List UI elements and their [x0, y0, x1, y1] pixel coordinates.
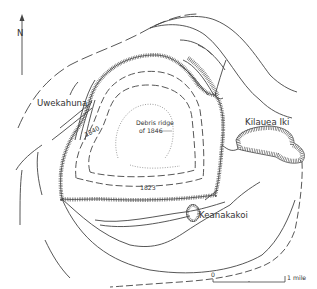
upper-right-scarp [180, 58, 226, 99]
southern-lines [62, 182, 295, 273]
north-arrow-icon: N [17, 14, 25, 75]
contour-1823-label: 1823 [140, 184, 156, 191]
keanakakoi-label: Keanakakoi [199, 210, 248, 220]
scale-start-label: 0 [211, 271, 215, 278]
debris-ridge-label-line1: Debris ridge [136, 119, 174, 127]
kilauea-caldera-map: N [0, 0, 317, 289]
keanakakoi-crater [187, 205, 200, 222]
scale-bar: 0 1 mile [211, 271, 306, 282]
kilauea-iki-label: Kilauea Iki [245, 117, 289, 127]
north-label: N [17, 28, 23, 38]
uwekahuna-label: Uwekahuna [37, 98, 87, 108]
contour-1840-label: 1840 [83, 124, 100, 138]
outer-fault-lines [18, 14, 297, 128]
debris-ridge-label-line2: of 1846 [139, 127, 163, 134]
kilauea-iki-crater [110, 126, 304, 287]
scale-end-label: 1 mile [287, 274, 306, 281]
